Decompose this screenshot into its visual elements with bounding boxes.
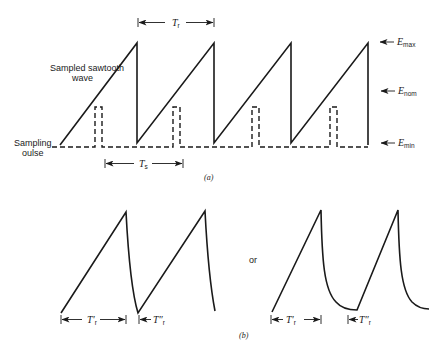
left-tr-double-prime-label: T″r [153,314,166,326]
part-b-caption: (b) [239,331,249,340]
left-tr-double-prime-dimension: T″r [139,314,166,326]
left-tr-prime-label: T′r [87,314,98,326]
right-tr-double-prime-label: T″r [359,314,372,326]
emin-marker: Emin [381,137,415,149]
sampled-sawtooth-label-2: wave [71,73,93,83]
waveform-b-left [61,211,215,313]
right-tr-prime-label: T′r [286,314,297,326]
emax-label: Emax [396,36,416,48]
part-a: Tr Sampled sawtooth wave Sampling oulse … [14,17,417,182]
left-tr-prime-dimension: T′r [61,314,126,326]
right-tr-prime-dimension: T′r [271,314,321,326]
sampling-pulse-train [52,107,368,147]
or-separator: or [249,255,257,265]
part-b: T′r T″r or T′r T″r (b) [61,210,429,340]
enom-label: Enom [397,85,417,97]
sampled-sawtooth-wave [60,43,368,145]
ts-label: Ts [139,158,149,170]
sawtooth-sampling-diagram: Tr Sampled sawtooth wave Sampling oulse … [0,0,446,345]
sampling-pulse-label-2: oulse [22,148,44,158]
sampling-pulse-label: Sampling [14,138,52,148]
waveform-b-right [272,210,429,312]
part-a-caption: (a) [204,173,214,182]
right-tr-double-prime-dimension: T″r [348,314,372,326]
ts-dimension: Ts [105,158,183,170]
tr-dimension: Tr [138,17,214,29]
sampled-sawtooth-label: Sampled sawtooth [50,63,124,73]
emax-marker: Emax [380,36,416,48]
tr-label: Tr [172,17,181,29]
enom-marker: Enom [381,85,417,97]
emin-label: Emin [397,137,415,149]
